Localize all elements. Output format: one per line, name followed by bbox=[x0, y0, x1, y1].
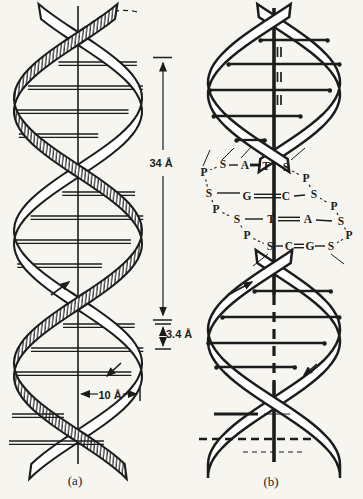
helix-to-ladder-line bbox=[203, 150, 210, 166]
base-letter-S: S bbox=[206, 187, 212, 199]
panel-a-label: (a) bbox=[68, 473, 82, 488]
base-letter-A: A bbox=[241, 159, 250, 171]
base-letter-S: S bbox=[234, 213, 240, 225]
backbone-bond bbox=[253, 239, 263, 244]
dna-structure-figure: 34 Å 3.4 Å 10 Å PSATSPSGCSPPSTASPPSCGS (… bbox=[0, 0, 363, 499]
phosphate-dot bbox=[337, 315, 341, 319]
base-letter-P: P bbox=[200, 166, 207, 178]
base-letter-S: S bbox=[220, 158, 226, 170]
dim-10-label: 10 Å bbox=[98, 389, 121, 401]
base-letter-P: P bbox=[212, 203, 219, 215]
dim-3-4-label: 3.4 Å bbox=[166, 328, 192, 340]
strand-direction-arrow-down-a bbox=[107, 363, 121, 376]
backbone-bond bbox=[210, 167, 216, 170]
phosphate-dot bbox=[263, 138, 267, 142]
phosphate-dot bbox=[208, 88, 212, 92]
phosphate-dot bbox=[293, 365, 297, 369]
helix-b-group: PSATSPSGCSPPSTASPPSCGS bbox=[199, 4, 353, 478]
base-letter-S: S bbox=[311, 188, 317, 200]
backbone-bond bbox=[292, 171, 300, 175]
helix-b-hbond-ticks bbox=[278, 47, 282, 105]
base-letter-P: P bbox=[345, 229, 352, 241]
phosphate-dot bbox=[226, 62, 230, 66]
pair-bond bbox=[294, 195, 305, 196]
dimension-3-4-angstrom: 3.4 Å bbox=[155, 324, 192, 349]
base-letter-C: C bbox=[282, 190, 290, 202]
phosphate-dot bbox=[329, 289, 333, 293]
base-letter-S: S bbox=[267, 240, 273, 252]
helix-to-ladder-line bbox=[331, 254, 344, 264]
base-letter-P: P bbox=[302, 172, 309, 184]
dimension-34-angstrom: 34 Å bbox=[149, 58, 172, 321]
backbone-bond bbox=[337, 239, 343, 243]
base-letter-S: S bbox=[283, 161, 289, 173]
phosphate-dot bbox=[234, 138, 238, 142]
base-letter-G: G bbox=[306, 240, 315, 252]
phosphate-dot bbox=[328, 88, 332, 92]
base-letter-T: T bbox=[267, 213, 275, 225]
phosphate-dot bbox=[325, 38, 329, 42]
phosphate-dot bbox=[322, 341, 326, 345]
phosphate-dot bbox=[206, 341, 210, 345]
base-letter-P: P bbox=[330, 200, 337, 212]
backbone-bond bbox=[206, 179, 208, 186]
dim-34-label: 34 Å bbox=[149, 157, 172, 169]
phosphate-dot bbox=[258, 38, 262, 42]
helix-a-group bbox=[9, 4, 143, 479]
backbone-bond bbox=[222, 213, 230, 217]
base-letter-P: P bbox=[243, 229, 250, 241]
panel-b-label: (b) bbox=[263, 474, 278, 489]
phosphate-dot bbox=[337, 62, 341, 66]
figure-canvas: 34 Å 3.4 Å 10 Å PSATSPSGCSPPSTASPPSCGS (… bbox=[0, 0, 363, 499]
base-letter-T: T bbox=[262, 160, 270, 172]
phosphate-dot bbox=[252, 289, 256, 293]
base-letter-C: C bbox=[285, 240, 293, 252]
phosphate-dot bbox=[298, 114, 302, 118]
base-letter-G: G bbox=[243, 190, 252, 202]
backbone-bond bbox=[320, 198, 328, 203]
base-letter-S: S bbox=[338, 215, 344, 227]
phosphate-dot bbox=[212, 114, 216, 118]
helix-to-ladder-line bbox=[241, 146, 252, 158]
base-letter-S: S bbox=[328, 240, 334, 252]
pair-bond bbox=[316, 220, 332, 221]
phosphate-dot bbox=[220, 315, 224, 319]
phosphate-dot bbox=[214, 365, 218, 369]
base-letter-A: A bbox=[304, 213, 313, 225]
